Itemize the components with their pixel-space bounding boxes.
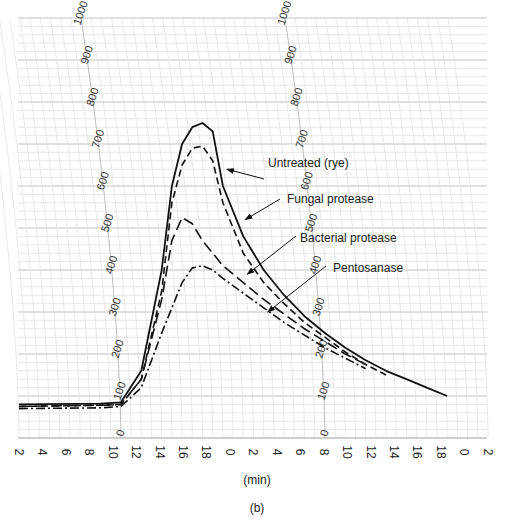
x-tick-labels: 2468101214161802468101214161802 — [12, 445, 495, 459]
x-axis-label: (min) — [243, 473, 270, 487]
x-tick-label: 18 — [434, 445, 448, 459]
arc-scale-label: 900 — [282, 44, 299, 65]
arc-scale-label: 400 — [102, 254, 119, 275]
x-tick-label: 6 — [59, 449, 73, 456]
x-tick-label: 16 — [176, 445, 190, 459]
arc-scale-label: 300 — [106, 296, 123, 317]
x-tick-label: 4 — [35, 449, 49, 456]
x-tick-label: 18 — [199, 445, 213, 459]
arc-scale-label: 300 — [310, 296, 327, 317]
series-line-fungal-protease — [19, 146, 386, 406]
annotation-label: Fungal protease — [287, 192, 374, 206]
arc-scale-label: 100 — [111, 380, 128, 401]
chart-subtitle: (b) — [250, 501, 265, 515]
x-tick-label: 14 — [387, 445, 401, 459]
x-tick-label: 8 — [317, 449, 331, 456]
x-tick-label: 14 — [153, 445, 167, 459]
x-tick-label: 2 — [12, 449, 26, 456]
arc-scale-label: 600 — [298, 170, 315, 191]
arc-scale-label: 700 — [293, 128, 310, 149]
x-tick-label: 8 — [82, 449, 96, 456]
chart-grid — [0, 18, 488, 438]
x-tick-label: 12 — [364, 445, 378, 459]
farinograph-chart: 0100200300400500600700800900100001002003… — [0, 0, 515, 521]
annotation-label: Bacterial protease — [300, 231, 397, 245]
x-tick-label: 2 — [481, 449, 495, 456]
arc-scale-label: 1000 — [275, 0, 294, 26]
x-tick-label: 12 — [129, 445, 143, 459]
annotation-arrow — [245, 199, 280, 220]
x-tick-label: 0 — [223, 449, 237, 456]
arc-scale-label: 900 — [78, 44, 95, 65]
arc-scale-label: 700 — [89, 128, 106, 149]
arc-scale-label: 800 — [288, 86, 305, 107]
arc-scale-label: 500 — [99, 212, 116, 233]
arc-scale-label: 1000 — [71, 0, 90, 26]
legend-annotations: Untreated (rye)Fungal proteaseBacterial … — [227, 156, 403, 312]
arc-scale-label: 600 — [94, 170, 111, 191]
x-tick-label: 16 — [410, 445, 424, 459]
arc-scale-label: 400 — [306, 254, 323, 275]
annotation-label: Pentosanase — [333, 261, 403, 275]
annotation-label: Untreated (rye) — [268, 156, 349, 170]
x-tick-label: 6 — [293, 449, 307, 456]
x-tick-label: 2 — [246, 449, 260, 456]
x-tick-label: 4 — [270, 449, 284, 456]
arc-scale-label: 200 — [109, 338, 126, 359]
arc-scale-label: 800 — [84, 86, 101, 107]
x-tick-label: 10 — [340, 445, 354, 459]
x-tick-label: 0 — [457, 449, 471, 456]
x-tick-label: 10 — [106, 445, 120, 459]
arc-scale-label: 100 — [315, 380, 332, 401]
